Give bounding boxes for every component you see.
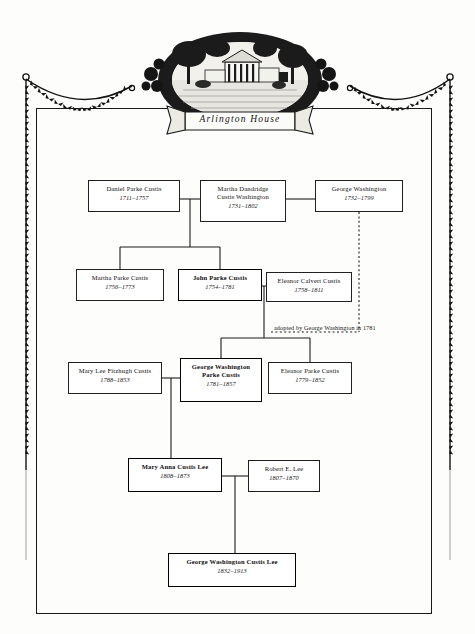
person-node-robert-e-lee[interactable]: Robert E. Lee 1807–1870: [248, 460, 320, 492]
person-node-george-washington-parke-custis[interactable]: George Washington Parke Custis 1781–1857: [180, 358, 262, 402]
person-name: Daniel Parke Custis: [92, 185, 176, 193]
person-dates: 1731–1802: [204, 202, 282, 210]
person-node-daniel-parke-custis[interactable]: Daniel Parke Custis 1711–1757: [88, 180, 180, 212]
person-node-martha-parke-custis[interactable]: Martha Parke Custis 1756–1773: [76, 269, 164, 301]
person-name: George Washington Custis Lee: [172, 558, 292, 566]
person-name-line1: Martha Dandridge: [204, 185, 282, 193]
genealogy-chart-page: Arlington House: [0, 0, 475, 634]
person-node-john-parke-custis[interactable]: John Parke Custis 1754–1781: [178, 269, 262, 301]
person-node-george-washington-custis-lee[interactable]: George Washington Custis Lee 1832–1913: [168, 553, 296, 587]
adoption-annotation-label: adopted by George Washington in 1781: [274, 324, 376, 331]
person-name: Mary Anna Custis Lee: [132, 463, 218, 471]
person-name: Mary Lee Fitzhugh Custis: [72, 367, 158, 375]
person-dates: 1754–1781: [182, 283, 258, 291]
person-node-mary-lee-fitzhugh-custis[interactable]: Mary Lee Fitzhugh Custis 1788–1853: [68, 362, 162, 394]
person-node-eleanor-parke-custis[interactable]: Eleanor Parke Custis 1779–1852: [268, 362, 352, 394]
person-name: Martha Parke Custis: [80, 274, 160, 282]
person-dates: 1779–1852: [272, 376, 348, 384]
person-name-line1: George Washington: [184, 363, 258, 371]
person-node-eleanor-calvert-custis[interactable]: Eleanor Calvert Custis 1758–1811: [266, 272, 352, 302]
person-name-line2: Parke Custis: [184, 371, 258, 379]
person-node-mary-anna-custis-lee[interactable]: Mary Anna Custis Lee 1808–1873: [128, 458, 222, 492]
person-name: Eleanor Parke Custis: [272, 367, 348, 375]
person-dates: 1808–1873: [132, 472, 218, 480]
person-name: George Washington: [319, 185, 399, 193]
person-name: Robert E. Lee: [252, 465, 316, 473]
person-node-martha-dandridge-custis-washington[interactable]: Martha Dandridge Custis Washington 1731–…: [200, 180, 286, 222]
person-dates: 1832–1913: [172, 567, 292, 575]
person-dates: 1756–1773: [80, 283, 160, 291]
person-node-george-washington[interactable]: George Washington 1732–1799: [315, 180, 403, 212]
person-dates: 1732–1799: [319, 194, 399, 202]
person-dates: 1781–1857: [184, 380, 258, 388]
person-dates: 1758–1811: [270, 286, 348, 294]
person-dates: 1788–1853: [72, 376, 158, 384]
person-dates: 1711–1757: [92, 194, 176, 202]
person-name: Eleanor Calvert Custis: [270, 277, 348, 285]
person-name-line2: Custis Washington: [204, 193, 282, 201]
family-tree-nodes: Daniel Parke Custis 1711–1757 Martha Dan…: [0, 0, 475, 634]
person-name: John Parke Custis: [182, 274, 258, 282]
person-dates: 1807–1870: [252, 474, 316, 482]
